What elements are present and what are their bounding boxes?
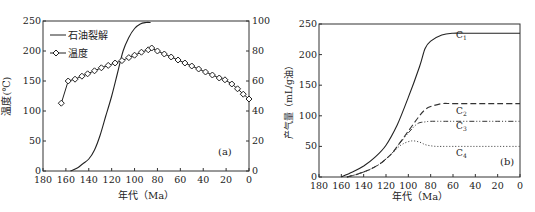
diamond-marker-icon <box>189 63 195 69</box>
svg-text:200: 200 <box>23 45 41 56</box>
svg-text:100: 100 <box>125 174 143 185</box>
panel-label-a: (a) <box>218 146 232 157</box>
svg-text:60: 60 <box>252 75 264 86</box>
legend-temperature: 温度 <box>68 47 88 59</box>
diamond-marker-icon <box>161 51 167 57</box>
diamond-marker-icon <box>222 77 228 83</box>
svg-text:80: 80 <box>425 180 437 191</box>
series-oil-cracking-line <box>71 22 151 171</box>
panel-label-b: (b) <box>500 156 514 167</box>
legend: 石油裂解 温度 <box>50 29 108 59</box>
series-c3-line <box>347 121 520 177</box>
x-axis-label: 年代（Ma） <box>118 189 174 201</box>
svg-text:40: 40 <box>252 105 264 116</box>
diamond-marker-icon <box>209 72 215 78</box>
svg-text:80: 80 <box>252 45 264 56</box>
svg-text:0: 0 <box>311 171 317 182</box>
svg-text:50: 50 <box>305 140 317 151</box>
diamond-marker-icon <box>58 100 64 106</box>
svg-text:160: 160 <box>57 174 75 185</box>
y-axis-label-left: 温度(℃) <box>0 76 12 115</box>
svg-text:0: 0 <box>252 165 258 176</box>
svg-text:80: 80 <box>151 174 163 185</box>
diamond-marker-icon <box>53 50 59 56</box>
svg-text:250: 250 <box>299 18 317 29</box>
plot-frame <box>319 24 520 177</box>
svg-text:100: 100 <box>23 105 41 116</box>
svg-text:160: 160 <box>332 180 350 191</box>
diamond-marker-icon <box>175 57 181 63</box>
svg-text:50: 50 <box>29 135 41 146</box>
curve-label-c1: C1 <box>456 30 467 41</box>
svg-text:120: 120 <box>377 180 395 191</box>
diamond-marker-icon <box>126 55 132 61</box>
svg-text:40: 40 <box>197 174 209 185</box>
svg-text:100: 100 <box>299 110 317 121</box>
x-axis-label: 年代（Ma） <box>392 190 448 202</box>
svg-text:250: 250 <box>23 15 41 26</box>
diamond-marker-icon <box>154 48 160 54</box>
diamond-marker-icon <box>132 52 138 58</box>
svg-text:20: 20 <box>220 174 232 185</box>
svg-text:100: 100 <box>252 15 270 26</box>
series-c1-line <box>341 33 520 177</box>
svg-text:140: 140 <box>355 180 373 191</box>
svg-text:150: 150 <box>23 75 41 86</box>
svg-text:0: 0 <box>35 165 41 176</box>
svg-text:200: 200 <box>299 49 317 60</box>
y-axis-ticks-right: 020406080100 <box>246 15 270 176</box>
diamond-marker-icon <box>65 78 71 84</box>
curve-label-c4: C4 <box>456 148 467 159</box>
series-c2-line <box>347 103 520 177</box>
svg-text:20: 20 <box>492 180 504 191</box>
diamond-marker-icon <box>98 65 104 71</box>
diamond-marker-icon <box>168 54 174 60</box>
diamond-marker-icon <box>203 69 209 75</box>
svg-text:100: 100 <box>399 180 417 191</box>
svg-text:60: 60 <box>447 180 459 191</box>
diamond-marker-icon <box>72 76 78 82</box>
svg-text:60: 60 <box>174 174 186 185</box>
diamond-marker-icon <box>112 60 118 66</box>
diamond-marker-icon <box>138 49 144 55</box>
svg-text:150: 150 <box>299 79 317 90</box>
svg-text:0: 0 <box>517 180 523 191</box>
curve-label-c2: C2 <box>456 106 467 117</box>
legend-oil-cracking: 石油裂解 <box>68 29 108 41</box>
diamond-marker-icon <box>182 60 188 66</box>
svg-text:120: 120 <box>103 174 121 185</box>
diamond-marker-icon <box>85 71 91 77</box>
y-axis-label: 产气量（mL/g油） <box>283 61 294 138</box>
chart-a-temperature-oil-cracking: 180160140120100806040200 050100150200250… <box>0 0 270 212</box>
curve-label-c3: C3 <box>456 121 467 132</box>
diamond-marker-icon <box>79 73 85 79</box>
diamond-marker-icon <box>216 75 222 81</box>
diamond-marker-icon <box>196 66 202 72</box>
svg-text:40: 40 <box>469 180 481 191</box>
chart-b-gas-yield: 180160140120100806040200 050100150200250… <box>270 0 535 212</box>
diamond-marker-icon <box>92 68 98 74</box>
svg-text:20: 20 <box>252 135 264 146</box>
svg-text:140: 140 <box>80 174 98 185</box>
diamond-marker-icon <box>105 62 111 68</box>
